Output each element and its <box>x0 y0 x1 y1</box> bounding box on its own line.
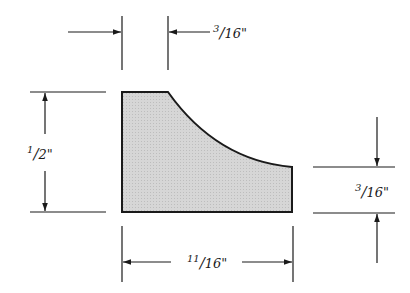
dim-label-right: 3/16" <box>355 182 389 201</box>
dimension-top-flat <box>68 16 210 70</box>
dim-label-left: 1/2" <box>27 144 53 163</box>
dim-label-top: 3/16" <box>213 23 247 42</box>
profile-shape <box>122 92 292 212</box>
dim-label-bottom: 11/16" <box>187 253 227 272</box>
profile-drawing: 3/16" 1/2" 3/16" 11/16" <box>0 0 410 293</box>
dimension-bottom-width <box>122 226 293 282</box>
